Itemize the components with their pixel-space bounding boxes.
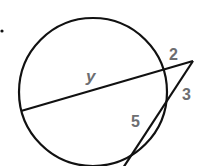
label-2: 2 xyxy=(169,46,178,63)
label-5: 5 xyxy=(131,113,140,130)
secant-diagram: y 2 3 5 xyxy=(0,0,202,166)
label-y: y xyxy=(85,67,97,86)
circle xyxy=(19,18,167,166)
label-3: 3 xyxy=(182,86,191,103)
bullet-dot xyxy=(0,29,3,32)
